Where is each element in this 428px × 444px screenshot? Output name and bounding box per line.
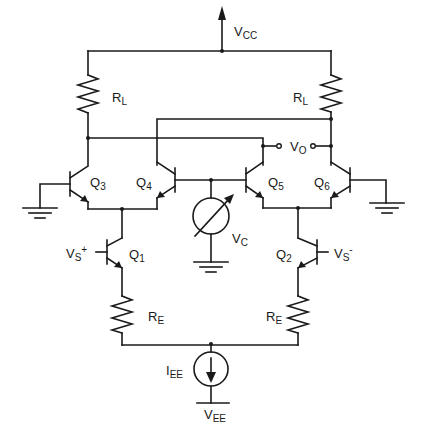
current-source-iee-icon xyxy=(194,344,229,403)
resistor-rl-right xyxy=(321,51,341,165)
resistor-re-right xyxy=(288,296,308,345)
label-vo: VO xyxy=(290,140,306,156)
label-iee: IEE xyxy=(166,364,183,380)
label-q1: Q1 xyxy=(129,248,145,264)
label-q6: Q6 xyxy=(314,176,330,192)
ground-right-icon xyxy=(370,203,404,213)
circuit-schematic xyxy=(0,0,428,444)
label-rl-right: RL xyxy=(293,91,308,107)
transistor-q3 xyxy=(40,166,88,209)
label-vs-minus: VS- xyxy=(334,245,353,263)
label-vcc: VCC xyxy=(234,25,257,41)
transistor-q1 xyxy=(96,209,122,296)
label-q5: Q5 xyxy=(268,176,284,192)
label-vc: VC xyxy=(232,232,248,248)
label-vs-plus: VS+ xyxy=(66,245,87,263)
resistor-rl-left xyxy=(78,51,98,165)
label-re-left: RE xyxy=(148,310,164,326)
transistor-q4 xyxy=(157,162,175,209)
label-q3: Q3 xyxy=(90,176,106,192)
transistor-q6 xyxy=(331,162,386,208)
ground-left-icon xyxy=(23,208,57,218)
label-q4: Q4 xyxy=(136,176,152,192)
label-re-right: RE xyxy=(266,310,282,326)
vcc-arrow-icon xyxy=(218,6,226,53)
resistor-re-left xyxy=(112,296,132,345)
variable-source-vc-icon xyxy=(193,180,234,272)
transistor-q5 xyxy=(246,162,263,208)
label-q2: Q2 xyxy=(276,248,292,264)
label-vee: VEE xyxy=(204,408,226,424)
label-rl-left: RL xyxy=(112,91,127,107)
transistor-q2 xyxy=(298,208,328,296)
